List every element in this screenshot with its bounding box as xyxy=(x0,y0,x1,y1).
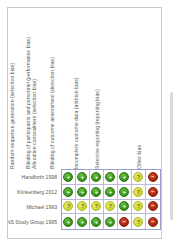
judgement-low-icon: + xyxy=(77,187,87,197)
judgement-low-icon: + xyxy=(63,172,73,182)
judgement-cell[interactable]: + xyxy=(76,214,90,229)
judgement-unclear-icon: ? xyxy=(63,201,73,211)
table-row: ????+?− xyxy=(62,200,160,215)
judgement-cell[interactable]: + xyxy=(104,185,118,200)
judgement-high-icon: − xyxy=(148,187,158,197)
judgement-cell[interactable]: ? xyxy=(62,200,76,215)
judgement-low-icon: + xyxy=(119,172,129,182)
judgement-low-icon: + xyxy=(105,187,115,197)
column-header-4: Incomplete outcome data (attrition bias) xyxy=(118,12,132,169)
judgement-cell[interactable]: − xyxy=(146,214,160,229)
study-label: Michael 1993 xyxy=(8,200,60,215)
judgement-unclear-icon: ? xyxy=(91,201,101,211)
judgement-cell[interactable]: ? xyxy=(132,170,146,185)
judgement-cell[interactable]: ? xyxy=(76,200,90,215)
judgement-cell[interactable]: ? xyxy=(104,200,118,215)
judgement-low-icon: + xyxy=(77,217,87,227)
judgement-cell[interactable]: + xyxy=(76,185,90,200)
judgement-high-icon: − xyxy=(148,172,158,182)
study-label-column: Handforth 1998Klinkenberg 2012Michael 19… xyxy=(8,169,60,230)
judgement-low-icon: + xyxy=(105,172,115,182)
judgement-cell[interactable]: + xyxy=(104,214,118,229)
judgement-cell[interactable]: − xyxy=(146,185,160,200)
judgement-unclear-icon: ? xyxy=(77,201,87,211)
judgement-unclear-icon: ? xyxy=(133,201,143,211)
judgement-cell[interactable]: + xyxy=(118,185,132,200)
judgement-low-icon: + xyxy=(91,172,101,182)
judgement-cell[interactable]: + xyxy=(62,185,76,200)
judgement-low-icon: + xyxy=(77,172,87,182)
judgement-cell[interactable]: + xyxy=(118,170,132,185)
judgement-cell[interactable]: + xyxy=(118,200,132,215)
judgement-cell[interactable]: + xyxy=(104,170,118,185)
judgement-high-icon: − xyxy=(148,217,158,227)
judgement-unclear-icon: ? xyxy=(105,201,115,211)
column-header-6: Other bias xyxy=(147,12,161,169)
column-header-3: Blinding of outcome assessment (detectio… xyxy=(104,12,118,169)
judgement-low-icon: + xyxy=(63,187,73,197)
judgement-cell[interactable]: + xyxy=(62,214,76,229)
judgement-cell[interactable]: ? xyxy=(90,200,104,215)
judgement-unclear-icon: ? xyxy=(133,172,143,182)
judgement-low-icon: + xyxy=(105,217,115,227)
judgement-cell[interactable]: ? xyxy=(132,214,146,229)
column-header-label: Other bias xyxy=(136,145,142,169)
judgement-low-icon: + xyxy=(91,187,101,197)
judgement-cell[interactable]: ? xyxy=(132,185,146,200)
judgement-cell[interactable]: − xyxy=(146,170,160,185)
column-header-row: Random sequence generation (selection bi… xyxy=(61,12,161,169)
study-label: VNS Study Group 1995 xyxy=(8,215,60,230)
judgement-grid: +++++?−+++++?−????+?−++++−?− xyxy=(61,169,161,230)
judgement-cell[interactable]: − xyxy=(118,214,132,229)
judgement-unclear-icon: ? xyxy=(133,187,143,197)
risk-of-bias-figure-panel: Random sequence generation (selection bi… xyxy=(7,7,162,239)
table-row: +++++?− xyxy=(62,170,160,185)
table-row: +++++?− xyxy=(62,185,160,200)
judgement-cell[interactable]: ? xyxy=(132,200,146,215)
column-header-label: Random sequence generation (selection bi… xyxy=(9,63,15,169)
judgement-cell[interactable]: + xyxy=(62,170,76,185)
column-header-label: Incomplete outcome data (attrition bias) xyxy=(74,78,80,169)
judgement-cell[interactable]: + xyxy=(90,214,104,229)
judgement-low-icon: + xyxy=(63,217,73,227)
column-header-label: Selective reporting (reporting bias) xyxy=(94,89,100,169)
vertical-scrollbar[interactable] xyxy=(170,92,173,220)
judgement-cell[interactable]: − xyxy=(146,200,160,215)
judgement-low-icon: + xyxy=(119,187,129,197)
judgement-cell[interactable]: + xyxy=(76,170,90,185)
judgement-cell[interactable]: + xyxy=(90,170,104,185)
study-label: Handforth 1998 xyxy=(8,169,60,184)
column-header-label: Blinding of outcome assessment (detectio… xyxy=(49,57,55,169)
risk-of-bias-table: Random sequence generation (selection bi… xyxy=(8,8,162,239)
judgement-high-icon: − xyxy=(148,201,158,211)
table-row: ++++−?− xyxy=(62,214,160,229)
judgement-unclear-icon: ? xyxy=(133,217,143,227)
column-header-label: Blinding of participants and personnel (… xyxy=(25,37,31,169)
judgement-low-icon: + xyxy=(91,217,101,227)
judgement-low-icon: + xyxy=(119,201,129,211)
study-label: Klinkenberg 2012 xyxy=(8,184,60,199)
judgement-high-icon: − xyxy=(119,217,129,227)
column-header-label: Allocation concealment (selection bias) xyxy=(31,79,37,169)
judgement-cell[interactable]: + xyxy=(90,185,104,200)
